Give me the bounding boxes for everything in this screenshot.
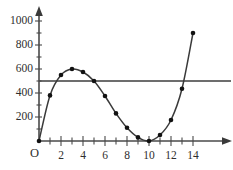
origin-label: O bbox=[30, 146, 39, 160]
x-tick-label-2: 2 bbox=[58, 149, 64, 161]
x-axis-arrow-icon bbox=[222, 137, 232, 145]
x-tick-label-14: 14 bbox=[187, 149, 199, 161]
function-graph: 1000 800 600 400 200 O 2 4 6 8 10 12 14 bbox=[0, 0, 233, 170]
x-tick-label-12: 12 bbox=[165, 149, 177, 161]
data-point bbox=[92, 79, 97, 84]
data-point bbox=[147, 139, 152, 144]
y-axis-arrow-icon bbox=[35, 6, 43, 16]
x-tick-label-10: 10 bbox=[143, 149, 155, 161]
chart-container: 1000 800 600 400 200 O 2 4 6 8 10 12 14 bbox=[0, 0, 233, 170]
data-point bbox=[125, 126, 130, 131]
data-point bbox=[180, 87, 185, 92]
y-tick-label-800: 800 bbox=[16, 38, 34, 50]
data-curve bbox=[39, 33, 193, 141]
data-point bbox=[70, 67, 75, 72]
data-point bbox=[81, 70, 86, 75]
x-tick-label-6: 6 bbox=[102, 149, 108, 161]
data-point bbox=[158, 133, 163, 138]
data-point-markers bbox=[37, 31, 196, 144]
data-point bbox=[136, 135, 141, 140]
y-tick-label-400: 400 bbox=[16, 86, 34, 98]
data-point bbox=[103, 94, 108, 99]
data-point bbox=[169, 118, 174, 123]
x-tick-label-8: 8 bbox=[124, 149, 130, 161]
y-tick-label-600: 600 bbox=[16, 62, 34, 74]
data-point bbox=[37, 139, 42, 144]
y-tick-label-200: 200 bbox=[16, 110, 34, 122]
data-point bbox=[114, 111, 119, 116]
x-tick-label-4: 4 bbox=[80, 149, 86, 161]
data-point bbox=[191, 31, 196, 36]
data-point bbox=[59, 73, 64, 78]
data-point bbox=[48, 93, 53, 98]
y-tick-label-1000: 1000 bbox=[10, 14, 33, 26]
